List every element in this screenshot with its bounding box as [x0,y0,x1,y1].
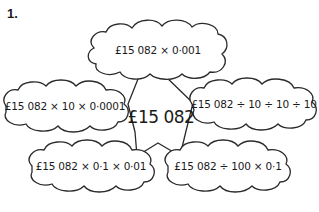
cloud-bottom-left-expression: £15 082 × 0·1 × 0·01 [36,160,146,172]
cloud-top-expression: £15 082 × 0·001 [115,44,201,56]
center-amount: £15 082 [128,107,195,127]
cloud-left-expression: £15 082 × 10 × 0·0001 [5,100,125,112]
cloud-bottom-right-expression: £15 082 ÷ 100 × 0·1 [174,160,281,172]
cloud-right-expression: £15 082 ÷ 10 ÷ 10 ÷ 10 [191,98,317,110]
